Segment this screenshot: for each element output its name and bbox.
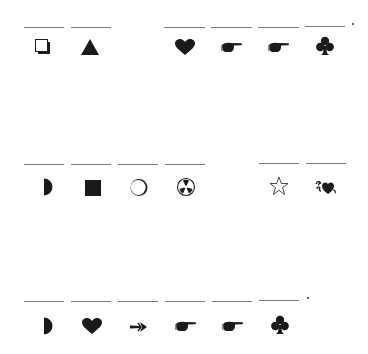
floral-heart-icon <box>314 177 338 197</box>
answer-blank[interactable] <box>71 301 111 302</box>
arrow-right-icon <box>127 317 151 337</box>
period-dot <box>307 297 309 299</box>
answer-blank[interactable] <box>71 27 111 28</box>
answer-blank[interactable] <box>24 301 64 302</box>
black-heart-icon <box>173 37 197 57</box>
answer-blank[interactable] <box>259 163 299 164</box>
answer-blank[interactable] <box>164 27 205 28</box>
answer-blank[interactable] <box>118 301 158 302</box>
black-club-icon <box>268 315 292 335</box>
answer-blank[interactable] <box>165 301 205 302</box>
pointing-hand-icon <box>221 316 245 336</box>
answer-blank[interactable] <box>211 27 252 28</box>
answer-blank[interactable] <box>165 164 205 165</box>
answer-blank[interactable] <box>259 300 299 301</box>
right-half-circle-icon <box>36 316 60 336</box>
white-star-icon <box>267 176 291 196</box>
answer-blank[interactable] <box>24 164 64 165</box>
shadowed-square-icon <box>31 37 55 57</box>
crescent-circle-icon <box>127 177 151 197</box>
trefoil-circle-icon <box>174 177 198 197</box>
black-heart-icon <box>80 316 104 336</box>
black-square-icon <box>81 178 105 198</box>
black-triangle-icon <box>78 37 102 57</box>
answer-blank[interactable] <box>24 27 64 28</box>
right-half-circle-icon <box>36 177 60 197</box>
answer-blank[interactable] <box>71 164 111 165</box>
answer-blank[interactable] <box>306 163 346 164</box>
pointing-hand-icon <box>267 37 291 57</box>
answer-blank[interactable] <box>212 301 252 302</box>
period-dot <box>352 23 354 25</box>
pointing-hand-icon <box>220 37 244 57</box>
pointing-hand-icon <box>174 316 198 336</box>
answer-blank[interactable] <box>118 164 158 165</box>
answer-blank[interactable] <box>305 26 345 27</box>
answer-blank[interactable] <box>258 27 299 28</box>
black-club-icon <box>313 36 337 56</box>
